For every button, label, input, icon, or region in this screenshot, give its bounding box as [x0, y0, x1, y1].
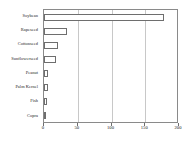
bar-row: [44, 94, 177, 108]
y-axis-label-cell: Soybean: [0, 9, 41, 23]
y-axis-tick-label: Palm Kernel: [15, 85, 38, 89]
bar-row: [44, 80, 177, 94]
bars-layer: [44, 10, 177, 122]
bar-chart-figure: Soybean Rapeseed Cottonseed Sunflowersee…: [0, 0, 193, 150]
y-axis-label-cell: Fish: [0, 95, 41, 109]
x-axis-tick-label: 50: [74, 126, 79, 131]
y-axis-label-cell: Rapeseed: [0, 23, 41, 37]
x-axis-tick-label: 0: [42, 126, 44, 131]
bar-fish: [44, 98, 47, 105]
bar-rapeseed: [44, 28, 67, 35]
bar-cottonseed: [44, 42, 59, 49]
bar-row: [44, 52, 177, 66]
plot-area: [43, 9, 178, 123]
y-axis-tick-label: Rapeseed: [21, 28, 38, 32]
y-axis-label-cell: Peanut: [0, 66, 41, 80]
y-axis-tick-label: Copra: [27, 114, 38, 118]
bar-palm-kernel: [44, 84, 49, 91]
y-axis-tick-label: Sunflowerseed: [11, 57, 38, 61]
y-axis-tick-label: Peanut: [26, 71, 38, 75]
x-axis: 050100150200: [43, 123, 178, 143]
bar-soybean: [44, 14, 165, 21]
y-axis-tick-label: Fish: [30, 99, 38, 103]
x-axis-tick-label: 200: [175, 126, 182, 131]
bar-row: [44, 38, 177, 52]
y-axis-tick-label: Cottonseed: [18, 42, 38, 46]
y-axis-tick-label: Soybean: [23, 14, 38, 18]
bar-row: [44, 24, 177, 38]
bar-copra: [44, 112, 46, 119]
bar-row: [44, 10, 177, 24]
y-axis-category-labels: Soybean Rapeseed Cottonseed Sunflowersee…: [0, 9, 41, 123]
x-axis-tick-label: 100: [107, 126, 114, 131]
y-axis-label-cell: Copra: [0, 109, 41, 123]
bar-row: [44, 66, 177, 80]
bar-row: [44, 108, 177, 122]
y-axis-label-cell: Sunflowerseed: [0, 52, 41, 66]
bar-peanut: [44, 70, 49, 77]
y-axis-label-cell: Palm Kernel: [0, 80, 41, 94]
bar-sunflowerseed: [44, 56, 57, 63]
x-axis-tick-label: 150: [141, 126, 148, 131]
y-axis-label-cell: Cottonseed: [0, 38, 41, 52]
